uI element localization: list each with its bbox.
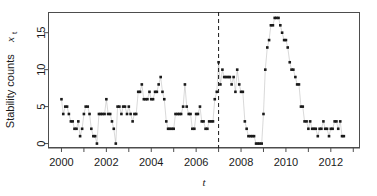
data-point [184,83,187,86]
data-point [126,113,129,116]
data-point [112,127,115,130]
data-point [68,113,71,116]
y-tick-label: 0 [35,141,47,147]
data-point [103,113,106,116]
data-point [335,120,338,123]
data-point [238,83,241,86]
data-point [277,17,280,20]
data-point [111,120,114,123]
data-point [157,83,160,86]
data-point [148,91,151,94]
data-point [213,98,216,101]
data-point [96,142,99,145]
data-point [105,98,108,101]
data-point [197,113,200,116]
data-point [139,91,142,94]
data-point [230,83,233,86]
data-point [152,98,155,101]
data-point [180,113,183,116]
data-point [71,120,74,123]
data-point [90,127,93,130]
data-point [83,113,86,116]
data-point [163,98,166,101]
data-point [286,46,289,49]
y-axis-label-text: Stability counts [4,54,16,128]
data-point [118,105,121,108]
data-point [141,83,144,86]
data-point [114,142,117,145]
x-tick-label: 2004 [139,156,163,168]
x-tick-label: 2008 [229,156,253,168]
data-point [288,61,291,64]
data-point [343,135,346,138]
stability-counts-figure: 051015 2000200220042006200820102012 Stab… [0,0,377,196]
data-point [128,105,131,108]
data-point [331,127,334,130]
data-point [339,120,342,123]
data-point [337,127,340,130]
data-point [215,91,218,94]
data-point [202,120,205,123]
data-point [285,39,288,42]
data-point [294,76,297,79]
data-point [60,98,63,101]
data-point [161,91,164,94]
x-tick-label: 2012 [319,156,343,168]
data-point [268,39,271,42]
x-tick-label: 2010 [274,156,298,168]
data-point [279,24,282,27]
x-tick-label: 2006 [184,156,208,168]
y-axis-label-variable: x [4,37,16,43]
data-point [109,113,112,116]
data-point [242,91,245,94]
data-point [262,113,265,116]
x-tick-label: 2002 [94,156,118,168]
data-point [193,127,196,130]
data-point [317,135,320,138]
data-point [146,98,149,101]
data-point [266,46,269,49]
data-point [245,127,248,130]
data-point [234,91,237,94]
y-tick-label: 5 [35,104,47,110]
data-point [156,91,159,94]
data-point [301,105,304,108]
data-point [326,127,329,130]
data-point [307,127,310,130]
data-point [229,76,232,79]
data-point [298,83,301,86]
data-point [135,113,138,116]
data-point [199,105,202,108]
data-point [124,105,127,108]
data-point [88,113,91,116]
data-point [221,68,224,71]
data-point [120,113,123,116]
data-point [159,76,162,79]
data-point [212,120,215,123]
data-point [292,68,295,71]
data-point [219,83,222,86]
data-point [264,68,267,71]
data-point [253,135,256,138]
data-point [79,135,82,138]
data-point [86,105,89,108]
y-tick-label: 10 [35,64,47,76]
data-point [62,113,65,116]
data-point [94,135,97,138]
data-point [320,127,323,130]
data-point [305,120,308,123]
data-point [309,120,312,123]
data-point [206,127,209,130]
data-point [185,105,188,108]
data-point [260,142,263,145]
data-point [81,127,84,130]
y-tick-label: 15 [35,27,47,39]
data-point [189,113,192,116]
x-tick-label: 2000 [49,156,73,168]
data-point [77,120,80,123]
data-point [322,120,325,123]
data-point [244,120,247,123]
data-point [328,135,331,138]
data-point [131,120,134,123]
data-point [129,113,132,116]
